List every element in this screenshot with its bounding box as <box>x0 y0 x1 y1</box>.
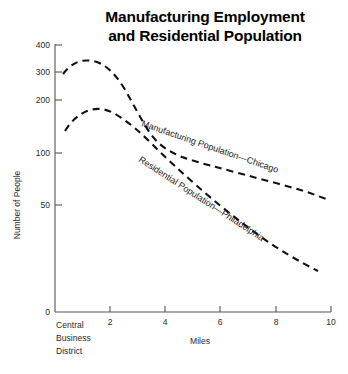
y-tick-label-300: 300 <box>36 67 50 77</box>
y-axis-title: Number of People <box>12 170 22 239</box>
series-line-manufacturing-chicago <box>63 60 326 199</box>
series-label-residential-philadelphia: Residential Population—Philadelphia <box>137 154 266 243</box>
origin-annotation-line-3: District <box>56 346 83 356</box>
x-tick-label-2: 2 <box>108 317 113 327</box>
x-tick-label-8: 8 <box>274 317 279 327</box>
chart-title-line-2: and Residential Population <box>108 27 302 44</box>
y-tick-label-0: 0 <box>45 307 50 317</box>
x-tick-label-6: 6 <box>218 317 223 327</box>
chart-title-line-1: Manufacturing Employment <box>105 8 304 25</box>
y-axis-ticks <box>55 45 62 205</box>
x-axis-title: Miles <box>190 336 210 346</box>
origin-annotation-line-2: Business <box>56 333 91 343</box>
x-tick-label-4: 4 <box>163 317 168 327</box>
y-tick-label-200: 200 <box>36 95 50 105</box>
y-tick-label-50: 50 <box>41 200 51 210</box>
x-tick-label-10: 10 <box>326 317 336 327</box>
y-tick-label-400: 400 <box>36 40 50 50</box>
x-axis-ticks <box>110 306 331 312</box>
y-tick-label-100: 100 <box>36 148 50 158</box>
origin-annotation-line-1: Central <box>56 320 84 330</box>
chart-figure: Manufacturing Employment and Residential… <box>0 0 348 374</box>
